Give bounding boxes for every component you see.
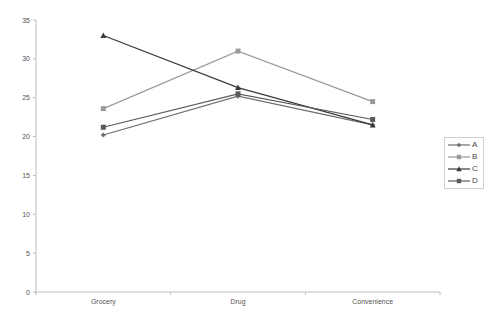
y-tick-label: 5 (26, 250, 30, 257)
diamond-marker (101, 133, 106, 138)
series-line (103, 96, 372, 135)
diamond-marker (457, 143, 461, 147)
y-tick-label: 15 (22, 172, 30, 179)
y-tick-label: 20 (22, 133, 30, 140)
legend-swatch (446, 175, 472, 187)
y-tick-label: 30 (22, 55, 30, 62)
legend-swatch (446, 139, 472, 151)
legend-item-B: B (445, 151, 483, 163)
series-C (100, 33, 375, 128)
legend-item-A: A (445, 139, 483, 151)
y-tick-label: 35 (22, 17, 30, 24)
square-marker (101, 106, 106, 111)
square-marker (370, 117, 375, 122)
y-tick-label: 0 (26, 289, 30, 296)
legend-label: B (472, 151, 477, 163)
square-marker (370, 99, 375, 104)
legend-item-D: D (445, 175, 483, 187)
legend-swatch (446, 151, 472, 163)
series-B (101, 49, 375, 112)
line-chart: 05101520253035GroceryDrugConvenience (0, 0, 485, 329)
square-marker (236, 49, 241, 54)
x-tick-label: Drug (230, 298, 245, 306)
series-A (101, 94, 375, 138)
triangle-marker (100, 33, 106, 39)
x-tick-label: Convenience (352, 298, 393, 305)
square-marker (101, 125, 106, 130)
y-tick-label: 25 (22, 94, 30, 101)
x-tick-label: Grocery (91, 298, 116, 306)
y-tick-label: 10 (22, 211, 30, 218)
legend-label: C (472, 163, 478, 175)
legend-label: D (472, 175, 478, 187)
square-marker (457, 179, 461, 183)
legend-swatch (446, 163, 472, 175)
square-marker (457, 155, 461, 159)
series-line (103, 94, 372, 127)
series-line (103, 51, 372, 109)
legend-item-C: C (445, 163, 483, 175)
square-marker (236, 91, 241, 96)
legend: ABCD (444, 137, 484, 189)
legend-label: A (472, 139, 477, 151)
